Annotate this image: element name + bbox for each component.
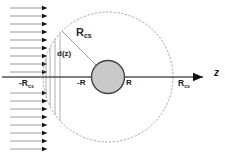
diagram-canvas (0, 0, 225, 152)
figure-root: Rcs d(z) -R R Rcs -Rcs z (0, 0, 225, 152)
outer-right-intercept-label: Rcs (178, 79, 190, 88)
inner-core-circle (92, 61, 125, 94)
inner-left-intercept-label: -R (77, 79, 85, 87)
z-axis-label: z (214, 68, 219, 78)
slab-thickness-label: d(z) (57, 50, 71, 58)
outer-left-intercept-label: -Rcs (19, 79, 34, 88)
slab-region (46, 0, 60, 152)
outer-radius-callout-label: Rcs (76, 27, 92, 38)
inner-right-intercept-label: R (126, 79, 132, 87)
